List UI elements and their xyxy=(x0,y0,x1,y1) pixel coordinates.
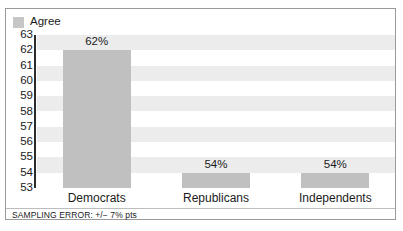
x-axis-category-labels: DemocratsRepublicansIndependents xyxy=(37,189,395,207)
bar-republicans[interactable] xyxy=(182,173,250,188)
chart-frame: Agree 6362616059585756555453 62%54%54% D… xyxy=(5,8,396,220)
y-axis-tick-59: 59 xyxy=(6,90,33,102)
plot-area: 62%54%54% xyxy=(37,35,395,188)
sampling-error-note: SAMPLING ERROR: +/− 7% pts xyxy=(12,210,137,220)
y-axis-tick-56: 56 xyxy=(6,136,33,148)
x-axis-label-independents: Independents xyxy=(276,189,395,207)
plot-wrapper: 6362616059585756555453 62%54%54% xyxy=(6,35,395,188)
bar-slot-independents: 54% xyxy=(276,35,395,188)
footer-divider xyxy=(6,208,395,209)
y-axis-tick-54: 54 xyxy=(6,167,33,179)
y-axis-tick-labels: 6362616059585756555453 xyxy=(6,35,33,188)
y-axis-tick-55: 55 xyxy=(6,152,33,164)
y-axis-tick-58: 58 xyxy=(6,106,33,118)
y-axis-tick-60: 60 xyxy=(6,75,33,87)
x-axis-label-democrats: Democrats xyxy=(37,189,156,207)
x-axis-label-republicans: Republicans xyxy=(156,189,275,207)
bar-democrats[interactable] xyxy=(63,50,131,188)
y-axis-line xyxy=(34,35,36,188)
y-axis-tick-61: 61 xyxy=(6,60,33,72)
bar-independents[interactable] xyxy=(301,173,369,188)
y-axis-tick-57: 57 xyxy=(6,121,33,133)
legend-swatch-agree xyxy=(13,17,24,28)
bar-series-agree: 62%54%54% xyxy=(37,35,395,188)
bar-slot-democrats: 62% xyxy=(37,35,156,188)
y-axis-tick-63: 63 xyxy=(6,29,33,41)
bar-value-label-democrats: 62% xyxy=(85,36,108,48)
bar-value-label-independents: 54% xyxy=(324,159,347,171)
legend-label-agree: Agree xyxy=(30,16,61,28)
y-axis-tick-62: 62 xyxy=(6,45,33,57)
bar-value-label-republicans: 54% xyxy=(204,159,227,171)
bar-slot-republicans: 54% xyxy=(156,35,275,188)
y-axis-tick-53: 53 xyxy=(6,182,33,194)
